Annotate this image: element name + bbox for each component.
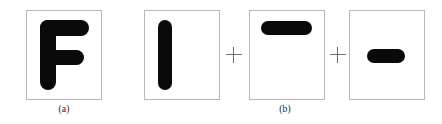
middle-horizontal-bar-stroke — [367, 49, 405, 63]
vertical-bar-stroke — [158, 20, 172, 90]
caption-b: (b) — [259, 104, 311, 114]
plus-vertical-bar-icon — [233, 47, 234, 63]
f-top-arm-stroke — [40, 20, 89, 36]
top-horizontal-bar-stroke — [261, 21, 312, 35]
f-middle-arm-stroke — [40, 50, 84, 65]
panel-vertical-bar — [144, 10, 220, 100]
plus-vertical-bar-icon — [337, 47, 338, 63]
plus-operator-1 — [226, 47, 242, 63]
figure-root: (a) (b) — [0, 0, 442, 124]
plus-operator-2 — [330, 47, 346, 63]
panel-letter-f — [26, 10, 102, 100]
panel-top-horizontal-bar — [249, 10, 325, 100]
panel-middle-horizontal-bar — [349, 10, 425, 100]
caption-a: (a) — [38, 104, 90, 114]
